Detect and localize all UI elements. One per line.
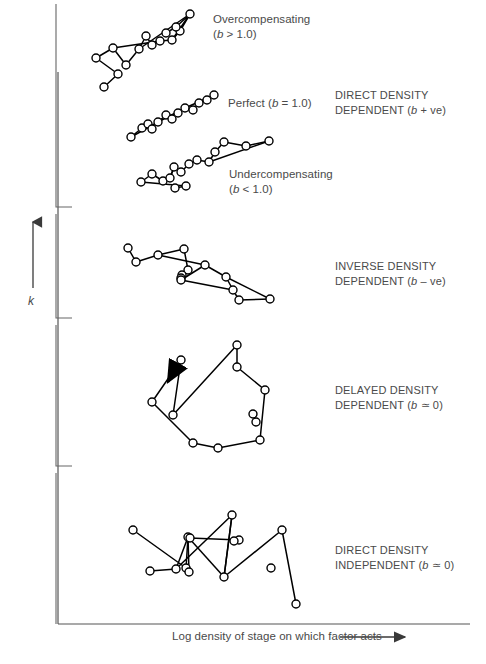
data-point <box>181 104 189 112</box>
label-overcompensating-sub: (b > 1.0) <box>213 27 310 42</box>
data-point <box>185 568 193 576</box>
data-point <box>162 29 170 37</box>
data-point <box>177 276 185 284</box>
data-point <box>129 526 137 534</box>
group-line2: DEPENDENT (b + ve) <box>335 103 446 118</box>
data-point <box>220 573 228 581</box>
data-point <box>249 410 257 418</box>
series-direct-density-independent-b-0 <box>129 511 300 608</box>
data-point <box>169 411 177 419</box>
data-point <box>109 44 117 52</box>
group-label-direct-density-dependent: DIRECT DENSITY DEPENDENT (b + ve) <box>335 88 446 117</box>
data-point <box>137 178 145 186</box>
axis-lines <box>58 72 470 624</box>
data-point <box>203 96 211 104</box>
label-perfect: Perfect (b = 1.0) <box>228 96 312 111</box>
group-line1: DELAYED DENSITY <box>335 384 439 396</box>
x-axis-label: Log density of stage on which factor act… <box>172 630 382 642</box>
data-point <box>230 537 238 545</box>
data-point <box>168 36 176 44</box>
data-point <box>132 258 140 266</box>
data-point <box>177 356 185 364</box>
label-perfect-rest: = 1.0) <box>278 97 311 109</box>
data-point <box>148 398 156 406</box>
label-overcompensating-main: Overcompensating <box>213 13 310 25</box>
data-point <box>166 174 174 182</box>
label-perfect-main: Perfect ( <box>228 97 272 109</box>
data-point <box>292 600 300 608</box>
data-point <box>172 565 180 573</box>
data-point <box>201 261 209 269</box>
data-point <box>228 511 236 519</box>
data-point <box>242 142 250 150</box>
series-overcompensating-b-1-0 <box>92 10 194 91</box>
data-point <box>222 273 230 281</box>
data-point <box>205 158 213 166</box>
series-inverse-density-dependent-b-ve <box>124 244 274 304</box>
series-path <box>133 515 296 604</box>
data-point <box>148 170 156 178</box>
data-point <box>182 182 190 190</box>
group-label-inverse-density-dependent: INVERSE DENSITY DEPENDENT (b – ve) <box>335 259 446 288</box>
group-line1: INVERSE DENSITY <box>335 260 436 272</box>
data-point <box>154 251 162 259</box>
data-point <box>174 109 182 117</box>
data-point <box>156 37 164 45</box>
data-point <box>266 295 274 303</box>
group-line2: DEPENDENT (b ≃ 0) <box>335 398 443 413</box>
data-point <box>135 45 143 53</box>
label-undercompensating: Undercompensating (b < 1.0) <box>229 167 333 196</box>
data-point <box>186 10 194 18</box>
data-point <box>265 137 273 145</box>
data-point <box>235 296 243 304</box>
group-label-direct-density-independent: DIRECT DENSITY INDEPENDENT (b ≃ 0) <box>335 543 454 572</box>
series-perfect-b-1-0 <box>127 91 218 141</box>
data-point <box>233 363 241 371</box>
data-point <box>177 168 185 176</box>
series-edge <box>158 255 205 265</box>
data-point <box>252 418 260 426</box>
data-point <box>148 125 156 133</box>
data-point <box>170 163 178 171</box>
cycle-direction-arrow <box>168 364 178 382</box>
label-undercompensating-main: Undercompensating <box>229 168 333 180</box>
data-point <box>195 99 203 107</box>
data-point <box>154 118 162 126</box>
group-line2: INDEPENDENT (b ≃ 0) <box>335 558 454 573</box>
data-point <box>256 436 264 444</box>
data-point <box>185 160 193 168</box>
data-point <box>122 61 130 69</box>
data-point <box>100 83 108 91</box>
data-point <box>148 41 156 49</box>
data-point <box>220 138 228 146</box>
group-label-delayed-density-dependent: DELAYED DENSITY DEPENDENT (b ≃ 0) <box>335 383 443 412</box>
data-point <box>229 286 237 294</box>
data-point <box>142 32 150 40</box>
data-point <box>180 245 188 253</box>
series-delayed-density-dependent-b-0 <box>148 341 269 452</box>
data-point <box>214 444 222 452</box>
data-point <box>189 439 197 447</box>
data-point <box>267 564 275 572</box>
density-dependence-figure: Overcompensating (b > 1.0) Perfect (b = … <box>0 0 486 664</box>
data-point <box>189 106 197 114</box>
data-point <box>172 23 180 31</box>
data-point <box>146 567 154 575</box>
group-line2: DEPENDENT (b – ve) <box>335 274 446 289</box>
group-line1: DIRECT DENSITY <box>335 544 429 556</box>
group-line1: DIRECT DENSITY <box>335 89 429 101</box>
series-path <box>128 248 270 300</box>
y-axis-label: k <box>28 294 34 308</box>
data-point <box>261 386 269 394</box>
series-edge <box>224 515 232 577</box>
data-point <box>193 156 201 164</box>
data-point <box>211 148 219 156</box>
data-point <box>92 54 100 62</box>
data-point <box>127 133 135 141</box>
label-overcompensating: Overcompensating (b > 1.0) <box>213 12 310 41</box>
series-path <box>152 345 265 448</box>
data-point <box>124 244 132 252</box>
data-point <box>171 184 179 192</box>
data-point <box>278 526 286 534</box>
label-undercompensating-sub: (b < 1.0) <box>229 182 333 197</box>
